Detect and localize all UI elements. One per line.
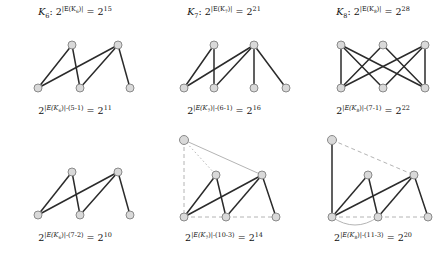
edge [226,175,262,217]
edge [38,45,72,88]
graph-node [76,84,84,92]
ghost-edge [184,140,262,175]
graph-node [421,84,429,92]
formula-k6-final: 2|E(K6)|-(7-2) = 210 [0,232,150,243]
formula-k8-final: 2|E(K8)|-(11-3) = 220 [298,232,448,243]
edge [184,175,216,217]
formula-k6-total-exp-close: )| [79,5,84,13]
graph-k7-top [178,38,294,96]
formula-k7-total-exp-close: )| [228,5,233,13]
ghost-edges-k8-bottom [332,140,428,225]
edge [414,175,428,217]
graph-node [337,41,345,49]
formula-k8-total-prefix: : 2 [347,6,359,17]
edge [80,172,118,215]
graph-node [410,171,418,179]
ghost-edge [332,217,378,225]
ghost-edge [184,140,216,175]
graph-node [379,84,387,92]
graph-node [364,171,372,179]
formula-k7-final: 2|E(K7)|-(10-3) = 214 [149,232,299,243]
graph-node [328,213,336,221]
formula-k8-final-exp-name: E(K [342,231,354,239]
formula-k6-total-exp-inner: |E(K [62,5,76,13]
formula-k7-reduced-equals: = [236,105,244,116]
formula-k7-final-exp-tail: )|-(10-3) [208,231,234,239]
graph-node [250,84,258,92]
formula-k7-total-prefix: : 2 [198,6,210,17]
graph-node [272,213,280,221]
nodes-k7-bottom [180,136,281,222]
graph-node [222,213,230,221]
formula-k8-final-result-exp: 20 [404,231,412,239]
graph-node [34,84,42,92]
formula-k7-total: K7: 2|E(K7)| = 221 [149,6,299,17]
graph-node [126,211,134,219]
graph-node [126,84,134,92]
graph-node [337,84,345,92]
formula-k7-reduced: 2|E(K7)|-(6-1) = 216 [149,105,299,116]
graph-node [180,84,188,92]
graph-node [421,41,429,49]
formula-k8-final-equals: = [387,232,395,243]
graph-node [210,41,218,49]
formula-k6-reduced-exp-name: E(K [46,104,58,112]
formula-k8-total-equals: = [384,6,392,17]
edge [38,45,118,88]
formula-k6-total-equals: = [86,6,94,17]
formula-k6-final-exp-tail: )|-(7-2) [61,231,83,239]
formula-k7-total-exp-inner: |E(K [211,5,225,13]
formula-k7-reduced-exp-tail: )|-(6-1) [210,104,232,112]
graph-node [76,211,84,219]
formula-k7-reduced-result-exp: 16 [253,104,261,112]
graph-node-new [180,136,189,145]
formula-k8-total-exp-close: )| [377,5,382,13]
formula-k6-final-equals: = [87,232,95,243]
formula-k6-reduced-exp-tail: )|-(5-1) [61,104,83,112]
formula-k8-reduced: 2|E(K8)|-(7-1) = 222 [298,105,448,116]
edges-k7-top [184,45,286,88]
formula-k8-total-exp-inner: |E(K [360,5,374,13]
graph-node [374,213,382,221]
graph-k8-top [335,38,435,96]
edge [118,172,130,215]
formula-k6-total-prefix: : 2 [49,6,61,17]
graph-k6-top [30,38,140,96]
edge [378,175,414,217]
edge [38,172,72,215]
edge [184,175,262,217]
edge [118,45,130,88]
formula-k7-total-equals: = [235,6,243,17]
edge [254,45,286,88]
formula-k6-total-result-exp: 15 [104,5,112,13]
formula-k8-final-exp-tail: )|-(11-3) [357,231,383,239]
formula-k6-reduced-result-exp: 11 [104,104,112,112]
graph-k7-bottom [172,133,292,225]
graph-node [68,168,76,176]
edges-k6-bottom [38,172,130,215]
graph-node [180,213,188,221]
graph-node [114,168,122,176]
graph-node [114,41,122,49]
edge [184,45,214,88]
edge [38,172,118,215]
graph-node [34,211,42,219]
formula-k6-final-exp-name: E(K [46,231,58,239]
formula-k8-reduced-equals: = [385,105,393,116]
edge [262,175,276,217]
formula-k8-reduced-exp-name: E(K [344,104,356,112]
formula-k7-final-equals: = [238,232,246,243]
formula-k6-reduced-equals: = [87,105,95,116]
formula-k7-final-exp-name: E(K [193,231,205,239]
formula-k6-total: K6: 2|E(K6)| = 215 [0,6,150,17]
formula-k6-final-result-exp: 10 [104,231,112,239]
graph-k6-bottom [30,165,140,223]
graph-node [379,41,387,49]
graph-node [282,84,290,92]
graph-node-new [328,136,337,145]
graph-node [210,84,218,92]
formula-k7-total-result-exp: 21 [253,5,261,13]
formula-k8-reduced-exp-tail: )|-(7-1) [359,104,381,112]
formula-k8-total-result-exp: 28 [402,5,410,13]
graph-node [212,171,220,179]
